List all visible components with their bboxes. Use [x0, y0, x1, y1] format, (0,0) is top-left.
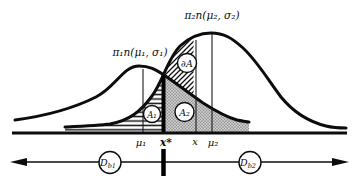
a1-label: A₁ — [146, 110, 157, 120]
left-arrowhead-icon — [10, 158, 27, 166]
mu2-axis-label: μ₂ — [208, 137, 219, 148]
curve1-density-label: π₁n(μ₁, σ₁) — [111, 46, 167, 58]
curve2-density-label: π₂n(μ₂, σ₂) — [183, 9, 239, 21]
xstar-axis-label: x* — [159, 136, 172, 148]
da-label: ∂A — [181, 58, 193, 69]
a2-label: A₂ — [178, 107, 190, 118]
mu1-axis-label: μ₁ — [136, 137, 147, 148]
figure-canvas: A₁ A₂ ∂A π₁n(μ₁, σ₁) π₂n(μ₂, σ₂) μ₁ x* x… — [0, 0, 359, 185]
right-arrowhead-icon — [332, 158, 349, 166]
d-b1-sub: b1 — [108, 162, 116, 170]
d-b2-sub: b2 — [248, 162, 256, 170]
distribution-overlap-figure: A₁ A₂ ∂A π₁n(μ₁, σ₁) π₂n(μ₂, σ₂) μ₁ x* x… — [0, 0, 359, 185]
x-axis-label: x — [192, 136, 198, 147]
